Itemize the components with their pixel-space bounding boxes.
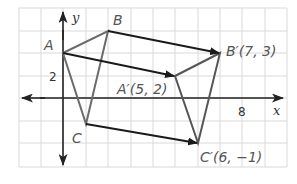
point-a-label: A — [43, 37, 54, 53]
y-axis-label: y — [71, 10, 80, 25]
point-a-prime-label: A′(5, 2) — [116, 81, 167, 97]
point-b-prime-label: B′(7, 3) — [226, 43, 276, 59]
arrow-b-to-b-prime — [108, 31, 219, 53]
point-c-prime-label: C′(6, −1) — [200, 149, 262, 165]
point-c-label: C — [72, 130, 82, 146]
coordinate-plane: y x 2 8 A B C A′(5, 2) B′(7, 3) C′(6, −1… — [0, 0, 297, 184]
y-tick-label: 2 — [49, 70, 57, 84]
point-b-label: B — [113, 12, 123, 28]
x-tick-label: 8 — [238, 105, 246, 119]
arrow-a-to-a-prime — [63, 53, 174, 76]
arrow-c-to-c-prime — [86, 124, 197, 143]
x-axis-label: x — [273, 103, 281, 118]
